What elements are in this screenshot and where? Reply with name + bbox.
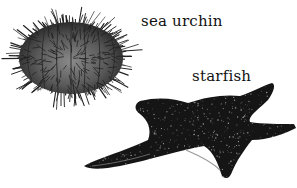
starfish-speckle xyxy=(247,132,248,133)
starfish-speckle xyxy=(128,167,129,168)
starfish-speckle xyxy=(151,146,152,147)
starfish-speckle xyxy=(267,96,268,97)
starfish-speckle xyxy=(139,114,140,115)
starfish-speckle xyxy=(101,172,102,173)
starfish-speckle xyxy=(235,88,236,89)
starfish-speckle xyxy=(193,92,194,93)
starfish-speckle xyxy=(274,106,275,107)
starfish-speckle xyxy=(251,109,252,110)
starfish-speckle xyxy=(188,170,189,171)
starfish-speckle xyxy=(231,168,232,169)
starfish-speckle xyxy=(150,147,151,148)
starfish-speckle xyxy=(278,167,279,168)
starfish-speckle xyxy=(93,138,94,139)
starfish-speckle xyxy=(183,176,184,177)
starfish-speckle xyxy=(91,155,92,156)
starfish-speckle xyxy=(132,141,133,142)
starfish-speckle xyxy=(160,120,161,121)
starfish-speckle xyxy=(122,116,123,117)
starfish-speckle xyxy=(235,138,236,139)
starfish-speckle xyxy=(171,114,172,115)
starfish-speckle xyxy=(259,140,260,141)
starfish-speckle xyxy=(274,112,275,113)
starfish-speckle xyxy=(257,151,258,152)
starfish-speckle xyxy=(275,163,276,164)
starfish-speckle xyxy=(246,139,247,140)
starfish-speckle xyxy=(241,102,242,103)
starfish-speckle xyxy=(168,98,169,99)
starfish-speckle xyxy=(98,157,99,158)
starfish-speckle xyxy=(188,144,189,145)
starfish-speckle xyxy=(268,120,269,121)
starfish-speckle xyxy=(99,141,100,142)
starfish-speckle xyxy=(173,132,174,133)
starfish-speckle xyxy=(168,148,169,149)
starfish-speckle xyxy=(189,146,190,147)
starfish-speckle xyxy=(181,164,182,165)
starfish-speckle xyxy=(235,176,236,177)
starfish-speckle xyxy=(197,166,198,167)
starfish-speckle xyxy=(270,177,271,178)
starfish-speckle xyxy=(115,116,116,117)
starfish-speckle xyxy=(256,150,257,151)
starfish-speckle xyxy=(233,131,234,132)
starfish-speckle xyxy=(97,97,98,98)
starfish-speckle xyxy=(143,110,144,111)
starfish-speckle xyxy=(185,162,186,163)
starfish-speckle xyxy=(142,108,143,109)
starfish-speckle xyxy=(155,142,156,143)
starfish-speckle xyxy=(264,151,265,152)
starfish-speckle xyxy=(240,132,241,133)
starfish-speckle xyxy=(201,143,202,144)
starfish-speckle xyxy=(295,138,296,139)
starfish-speckle xyxy=(146,98,147,99)
starfish-speckle xyxy=(232,103,233,104)
starfish-speckle xyxy=(245,114,246,115)
starfish-speckle xyxy=(214,131,215,132)
starfish-speckle xyxy=(293,144,294,145)
starfish-speckle xyxy=(229,119,230,120)
starfish-speckle xyxy=(186,172,187,173)
starfish-speckle xyxy=(277,107,278,108)
starfish-speckle xyxy=(147,83,148,84)
starfish-speckle xyxy=(161,169,162,170)
starfish-speckle xyxy=(171,106,172,107)
starfish-speckle xyxy=(166,173,167,174)
starfish-speckle xyxy=(210,166,211,167)
starfish-speckle xyxy=(110,143,111,144)
starfish-speckle xyxy=(230,174,231,175)
starfish-speckle xyxy=(224,177,225,178)
starfish-speckle xyxy=(89,113,90,114)
starfish-speckle xyxy=(192,111,193,112)
starfish-speckle xyxy=(246,111,247,112)
starfish-speckle xyxy=(248,125,249,126)
starfish-speckle xyxy=(160,89,161,90)
starfish-speckle xyxy=(167,152,168,153)
starfish-speckle xyxy=(213,146,214,147)
starfish-speckle xyxy=(131,137,132,138)
starfish-speckle xyxy=(260,137,261,138)
starfish-speckle xyxy=(284,150,285,151)
starfish-speckle xyxy=(194,102,195,103)
starfish-speckle xyxy=(113,127,114,128)
starfish-speckle xyxy=(251,94,252,95)
starfish-speckle xyxy=(223,121,224,122)
starfish-speckle xyxy=(116,158,117,159)
starfish-speckle xyxy=(177,135,178,136)
starfish-speckle xyxy=(193,122,194,123)
starfish-speckle xyxy=(215,134,216,135)
starfish-speckle xyxy=(259,104,260,105)
starfish-speckle xyxy=(164,129,165,130)
starfish-speckle xyxy=(285,140,286,141)
starfish-speckle xyxy=(256,171,257,172)
starfish-speckle xyxy=(91,155,92,156)
starfish-speckle xyxy=(281,126,282,127)
starfish-speckle xyxy=(121,165,122,166)
starfish-speckle xyxy=(126,173,127,174)
starfish-speckle xyxy=(222,169,223,170)
starfish-speckle xyxy=(206,149,207,150)
starfish-speckle xyxy=(295,134,296,135)
starfish-speckle xyxy=(240,173,241,174)
starfish-speckle xyxy=(126,167,127,168)
starfish-speckle xyxy=(125,176,126,177)
